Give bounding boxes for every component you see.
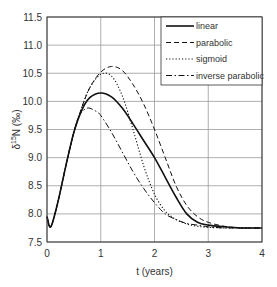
y-tick-label: 10.0 — [23, 96, 43, 107]
y-axis-label: δ15N (‰) — [10, 109, 22, 149]
legend: linearparabolicsigmoidinverse parabolic — [161, 17, 265, 85]
y-tick-label: 10.5 — [23, 68, 43, 79]
y-tick-label: 9.0 — [28, 152, 42, 163]
y-tick-label: 8.5 — [28, 180, 42, 191]
x-tick-label: 4 — [259, 248, 265, 259]
legend-label: inverse parabolic — [196, 71, 265, 81]
y-tick-label: 11.5 — [23, 12, 42, 23]
y-label-rest: N (‰) — [11, 109, 22, 136]
y-tick-label: 9.5 — [28, 124, 42, 135]
y-label-superscript: 15 — [10, 136, 17, 144]
chart: 7.58.08.59.09.510.010.511.011.5 01234 t … — [0, 0, 277, 287]
legend-label: linear — [196, 21, 218, 31]
x-tick-label: 2 — [152, 248, 158, 259]
legend-label: parabolic — [196, 38, 233, 48]
y-axis-ticks: 7.58.08.59.09.510.010.511.011.5 — [23, 12, 43, 248]
x-tick-label: 1 — [98, 248, 104, 259]
y-tick-label: 11.0 — [23, 40, 42, 51]
x-axis-label: t (years) — [136, 266, 173, 277]
y-tick-label: 7.5 — [28, 237, 42, 248]
legend-label: sigmoid — [196, 54, 227, 64]
y-tick-label: 8.0 — [28, 208, 42, 219]
svg-text:δ15N (‰): δ15N (‰) — [10, 109, 22, 149]
x-tick-label: 3 — [205, 248, 211, 259]
x-axis-ticks: 01234 — [44, 248, 265, 259]
x-tick-label: 0 — [44, 248, 50, 259]
